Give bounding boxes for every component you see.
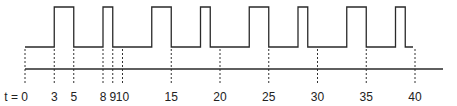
time-marker-dashes: [25, 49, 415, 85]
timing-diagram: t = 0358910152025303540: [0, 0, 457, 106]
time-label-3: 3: [51, 90, 58, 104]
time-label-5: 5: [70, 90, 77, 104]
time-axis-labels: t = 0358910152025303540: [4, 90, 422, 104]
pulse-waveform: [25, 7, 413, 47]
time-label-35: 35: [360, 90, 374, 104]
timing-diagram-svg: t = 0358910152025303540: [0, 0, 457, 106]
time-label-10: 10: [116, 90, 130, 104]
time-label-25: 25: [262, 90, 276, 104]
time-label-40: 40: [408, 90, 422, 104]
time-label-0: t = 0: [4, 90, 28, 104]
time-label-20: 20: [213, 90, 227, 104]
time-label-15: 15: [165, 90, 179, 104]
time-label-30: 30: [311, 90, 325, 104]
time-label-8: 8: [100, 90, 107, 104]
